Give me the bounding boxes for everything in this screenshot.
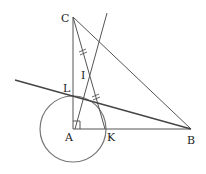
label-point-i: I — [81, 69, 85, 82]
segment-ck — [73, 17, 105, 129]
label-point-b: B — [187, 134, 195, 147]
label-point-a: A — [64, 131, 74, 144]
label-point-c: C — [61, 12, 69, 25]
label-point-l: L — [63, 82, 71, 95]
label-point-k: K — [107, 131, 116, 144]
geometry-diagram: C I L A K B — [0, 0, 206, 174]
line-a-through-i — [75, 13, 107, 129]
